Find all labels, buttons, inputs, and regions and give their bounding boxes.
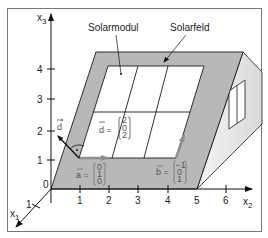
- x2-tick-2: 2: [106, 195, 112, 206]
- x3-tick-4: 4: [37, 64, 43, 75]
- svg-text:1: 1: [177, 174, 182, 184]
- svg-text:2: 2: [122, 130, 127, 140]
- solar-field-diagram: 1 2 3 4 5 6 1 2 3 4 0 1 x3 x2 x1 Solarmo…: [0, 0, 268, 238]
- x2-tick-5: 5: [194, 195, 200, 206]
- x2-tick-6: 6: [223, 195, 229, 206]
- x3-tick-1: 1: [37, 155, 43, 166]
- svg-text:d =: d =: [99, 125, 112, 135]
- svg-text:d: d: [57, 122, 62, 132]
- svg-text:0: 0: [97, 176, 102, 186]
- x3-tick-3: 3: [37, 94, 43, 105]
- svg-text:b =: b =: [156, 167, 169, 177]
- x1-tick-1: 1: [26, 199, 32, 210]
- solarmodul-label: Solarmodul: [88, 22, 139, 33]
- x2-tick-3: 3: [135, 195, 141, 206]
- origin-label: 0: [43, 179, 49, 190]
- solarfeld-label: Solarfeld: [170, 22, 209, 33]
- x2-tick-1: 1: [77, 195, 83, 206]
- x2-tick-4: 4: [165, 195, 171, 206]
- x3-tick-2: 2: [37, 126, 43, 137]
- svg-text:a =: a =: [76, 170, 89, 180]
